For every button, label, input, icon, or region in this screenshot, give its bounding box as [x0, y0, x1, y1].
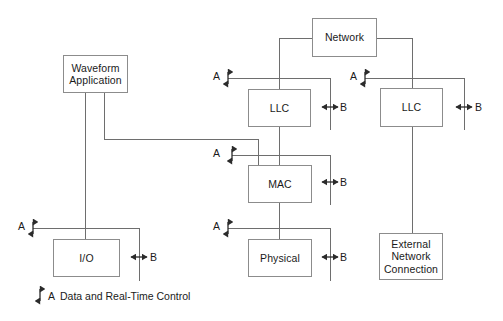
port-label-b-physical: B — [340, 252, 347, 263]
link-network-llc-right — [377, 38, 412, 88]
port-label-b-llc-right: B — [475, 102, 482, 113]
port-label-a-llc-left: A — [213, 71, 220, 82]
port-label-b-io: B — [150, 252, 157, 263]
node-network[interactable]: Network — [312, 18, 377, 57]
port-label-a-mac: A — [213, 148, 220, 159]
node-label: MAC — [268, 178, 292, 191]
diagram-canvas: Waveform Application I/O Network LLC MAC… — [0, 0, 503, 321]
link-waveform-mac — [104, 93, 258, 165]
port-label-b-llc-left: B — [340, 102, 347, 113]
port-label-b-mac: B — [340, 177, 347, 188]
node-label: LLC — [270, 102, 290, 115]
node-mac[interactable]: MAC — [248, 165, 312, 203]
node-label: Waveform Application — [69, 62, 121, 87]
node-external-network-connection[interactable]: External Network Connection — [379, 233, 443, 280]
legend-key-label: A — [48, 290, 55, 302]
node-io[interactable]: I/O — [53, 239, 120, 277]
node-label: Network — [325, 31, 364, 44]
port-label-a-llc-right: A — [350, 71, 357, 82]
node-physical[interactable]: Physical — [248, 239, 312, 277]
node-llc-left[interactable]: LLC — [248, 89, 311, 127]
node-label: Physical — [260, 252, 300, 265]
port-label-a-physical: A — [213, 221, 220, 232]
node-label: I/O — [79, 252, 93, 265]
legend-description: Data and Real-Time Control — [60, 290, 190, 302]
link-network-llc-left — [279, 38, 312, 89]
node-label: LLC — [402, 101, 422, 114]
node-llc-right[interactable]: LLC — [380, 88, 443, 127]
node-label: External Network Connection — [384, 238, 438, 276]
node-waveform-application[interactable]: Waveform Application — [63, 55, 128, 93]
port-label-a-io: A — [18, 221, 25, 232]
